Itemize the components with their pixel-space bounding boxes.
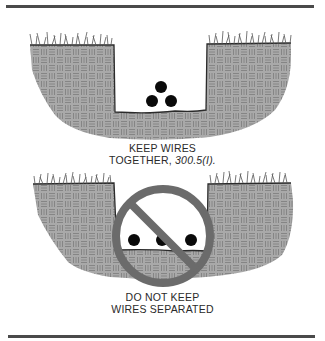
caption-correct-line2: TOGETHER, 300.5(I).	[0, 154, 325, 166]
top-divider-rule	[6, 5, 314, 8]
trench-correct	[30, 31, 291, 140]
caption-correct: KEEP WIRES TOGETHER, 300.5(I).	[0, 142, 325, 166]
wire-conductor	[146, 95, 158, 107]
bottom-divider-rule	[8, 335, 315, 338]
code-reference: 300.5(I).	[175, 154, 216, 166]
grass-left-incorrect	[34, 172, 111, 184]
trench-incorrect	[33, 171, 293, 283]
wire-conductor	[128, 234, 140, 246]
wire-conductor	[185, 234, 197, 246]
caption-correct-prefix: TOGETHER,	[109, 154, 172, 166]
wire-conductor	[165, 95, 177, 107]
wires-grouped	[146, 81, 177, 107]
caption-correct-line1: KEEP WIRES	[0, 142, 325, 154]
caption-incorrect: DO NOT KEEP WIRES SEPARATED	[0, 291, 325, 315]
diagram-canvas	[0, 0, 325, 341]
wire-conductor	[155, 81, 167, 93]
caption-incorrect-line1: DO NOT KEEP	[0, 291, 325, 303]
caption-incorrect-line2: WIRES SEPARATED	[0, 303, 325, 315]
grass-left-correct	[30, 32, 112, 45]
grass-right-correct	[209, 31, 291, 44]
grass-right-incorrect	[210, 171, 287, 183]
